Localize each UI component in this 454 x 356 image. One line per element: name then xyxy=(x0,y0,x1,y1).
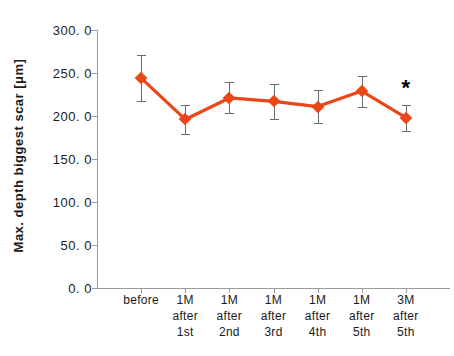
y-axis-title: Max. depth biggest scar [μm] xyxy=(11,20,26,292)
y-axis-tick-labels: 300. 0250. 0200. 0150. 0100. 050. 00. 0 xyxy=(34,22,92,296)
y-axis-tick-label: 100. 0 xyxy=(34,196,92,209)
chart-container: Max. depth biggest scar [μm] 300. 0250. … xyxy=(0,0,454,356)
y-axis-tick-label: 250. 0 xyxy=(34,67,92,80)
x-axis-tick-label-line: after xyxy=(369,308,443,324)
significance-marker: * xyxy=(402,77,411,99)
plot-area: * xyxy=(97,30,450,288)
y-axis-tick xyxy=(92,288,97,289)
y-axis-tick-label: 200. 0 xyxy=(34,110,92,123)
x-axis-tick-label: 3Mafter5th xyxy=(369,292,443,340)
y-axis-tick-label: 300. 0 xyxy=(34,24,92,37)
x-axis-tick-label-line: 5th xyxy=(369,324,443,340)
y-axis-tick-label: 0. 0 xyxy=(34,282,92,295)
y-axis-tick-label: 50. 0 xyxy=(34,239,92,252)
y-axis-tick-label: 150. 0 xyxy=(34,153,92,166)
x-axis-tick-label-line: 3M xyxy=(369,292,443,308)
series-line xyxy=(97,30,450,288)
x-axis-tick-labels: before 1Mafter1st1Mafter2nd1Mafter3rd1Ma… xyxy=(97,292,450,354)
